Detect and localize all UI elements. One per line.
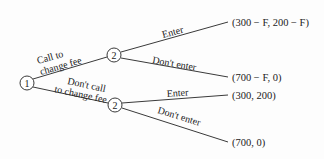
node-label: 2 — [113, 100, 118, 111]
payoff-lower-dont-enter: (700, 0) — [232, 137, 266, 149]
edge-label-lower-dont-enter: Don't enter — [156, 104, 202, 128]
node-label: 2 — [112, 50, 117, 61]
edge-label-lower-enter: Enter — [166, 86, 189, 99]
payoff-upper-dont-enter: (700 − F, 0) — [232, 72, 282, 84]
node-player-1-root: 1 — [20, 76, 34, 90]
game-tree-diagram: 1 2 2 Call to change fee Don't call to c… — [0, 0, 324, 159]
edge-label-upper-dont-enter: Don't enter — [152, 54, 198, 73]
node-label: 1 — [25, 78, 30, 89]
payoff-upper-enter: (300 − F, 200 − F) — [232, 17, 309, 29]
node-player-2-lower: 2 — [108, 98, 122, 112]
node-player-2-upper: 2 — [107, 48, 121, 62]
payoff-lower-enter: (300, 200) — [232, 90, 276, 102]
